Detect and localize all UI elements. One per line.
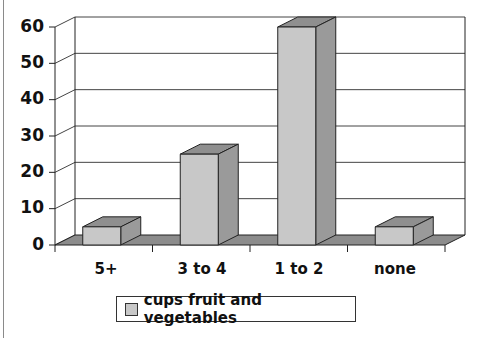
gridline-depth xyxy=(55,126,75,136)
y-tick-label: 60 xyxy=(4,16,44,36)
y-tick-label: 30 xyxy=(4,125,44,145)
bar-front xyxy=(180,154,218,245)
gridline-depth xyxy=(55,199,75,209)
y-tick-label: 20 xyxy=(4,161,44,181)
y-tick-label: 0 xyxy=(4,234,44,254)
chart-plot xyxy=(0,0,482,338)
y-tick-label: 40 xyxy=(4,88,44,108)
x-tick-label: 3 to 4 xyxy=(154,260,250,278)
y-tick-label: 10 xyxy=(4,197,44,217)
x-tick-label: none xyxy=(347,260,443,278)
chart-legend: cups fruit and vegetables xyxy=(116,296,356,322)
bar-front xyxy=(83,227,121,245)
bar-front xyxy=(375,227,413,245)
gridline-depth xyxy=(55,53,75,63)
bar-front xyxy=(278,27,316,245)
legend-swatch-icon xyxy=(125,303,138,316)
gridline-depth xyxy=(55,162,75,172)
bar-side xyxy=(316,17,336,245)
y-tick-label: 50 xyxy=(4,52,44,72)
gridline-depth xyxy=(55,17,75,27)
gridline-depth xyxy=(55,90,75,100)
x-tick-label: 5+ xyxy=(58,260,154,278)
legend-label: cups fruit and vegetables xyxy=(144,291,355,327)
x-tick-label: 1 to 2 xyxy=(251,260,347,278)
bar-side xyxy=(218,144,238,245)
